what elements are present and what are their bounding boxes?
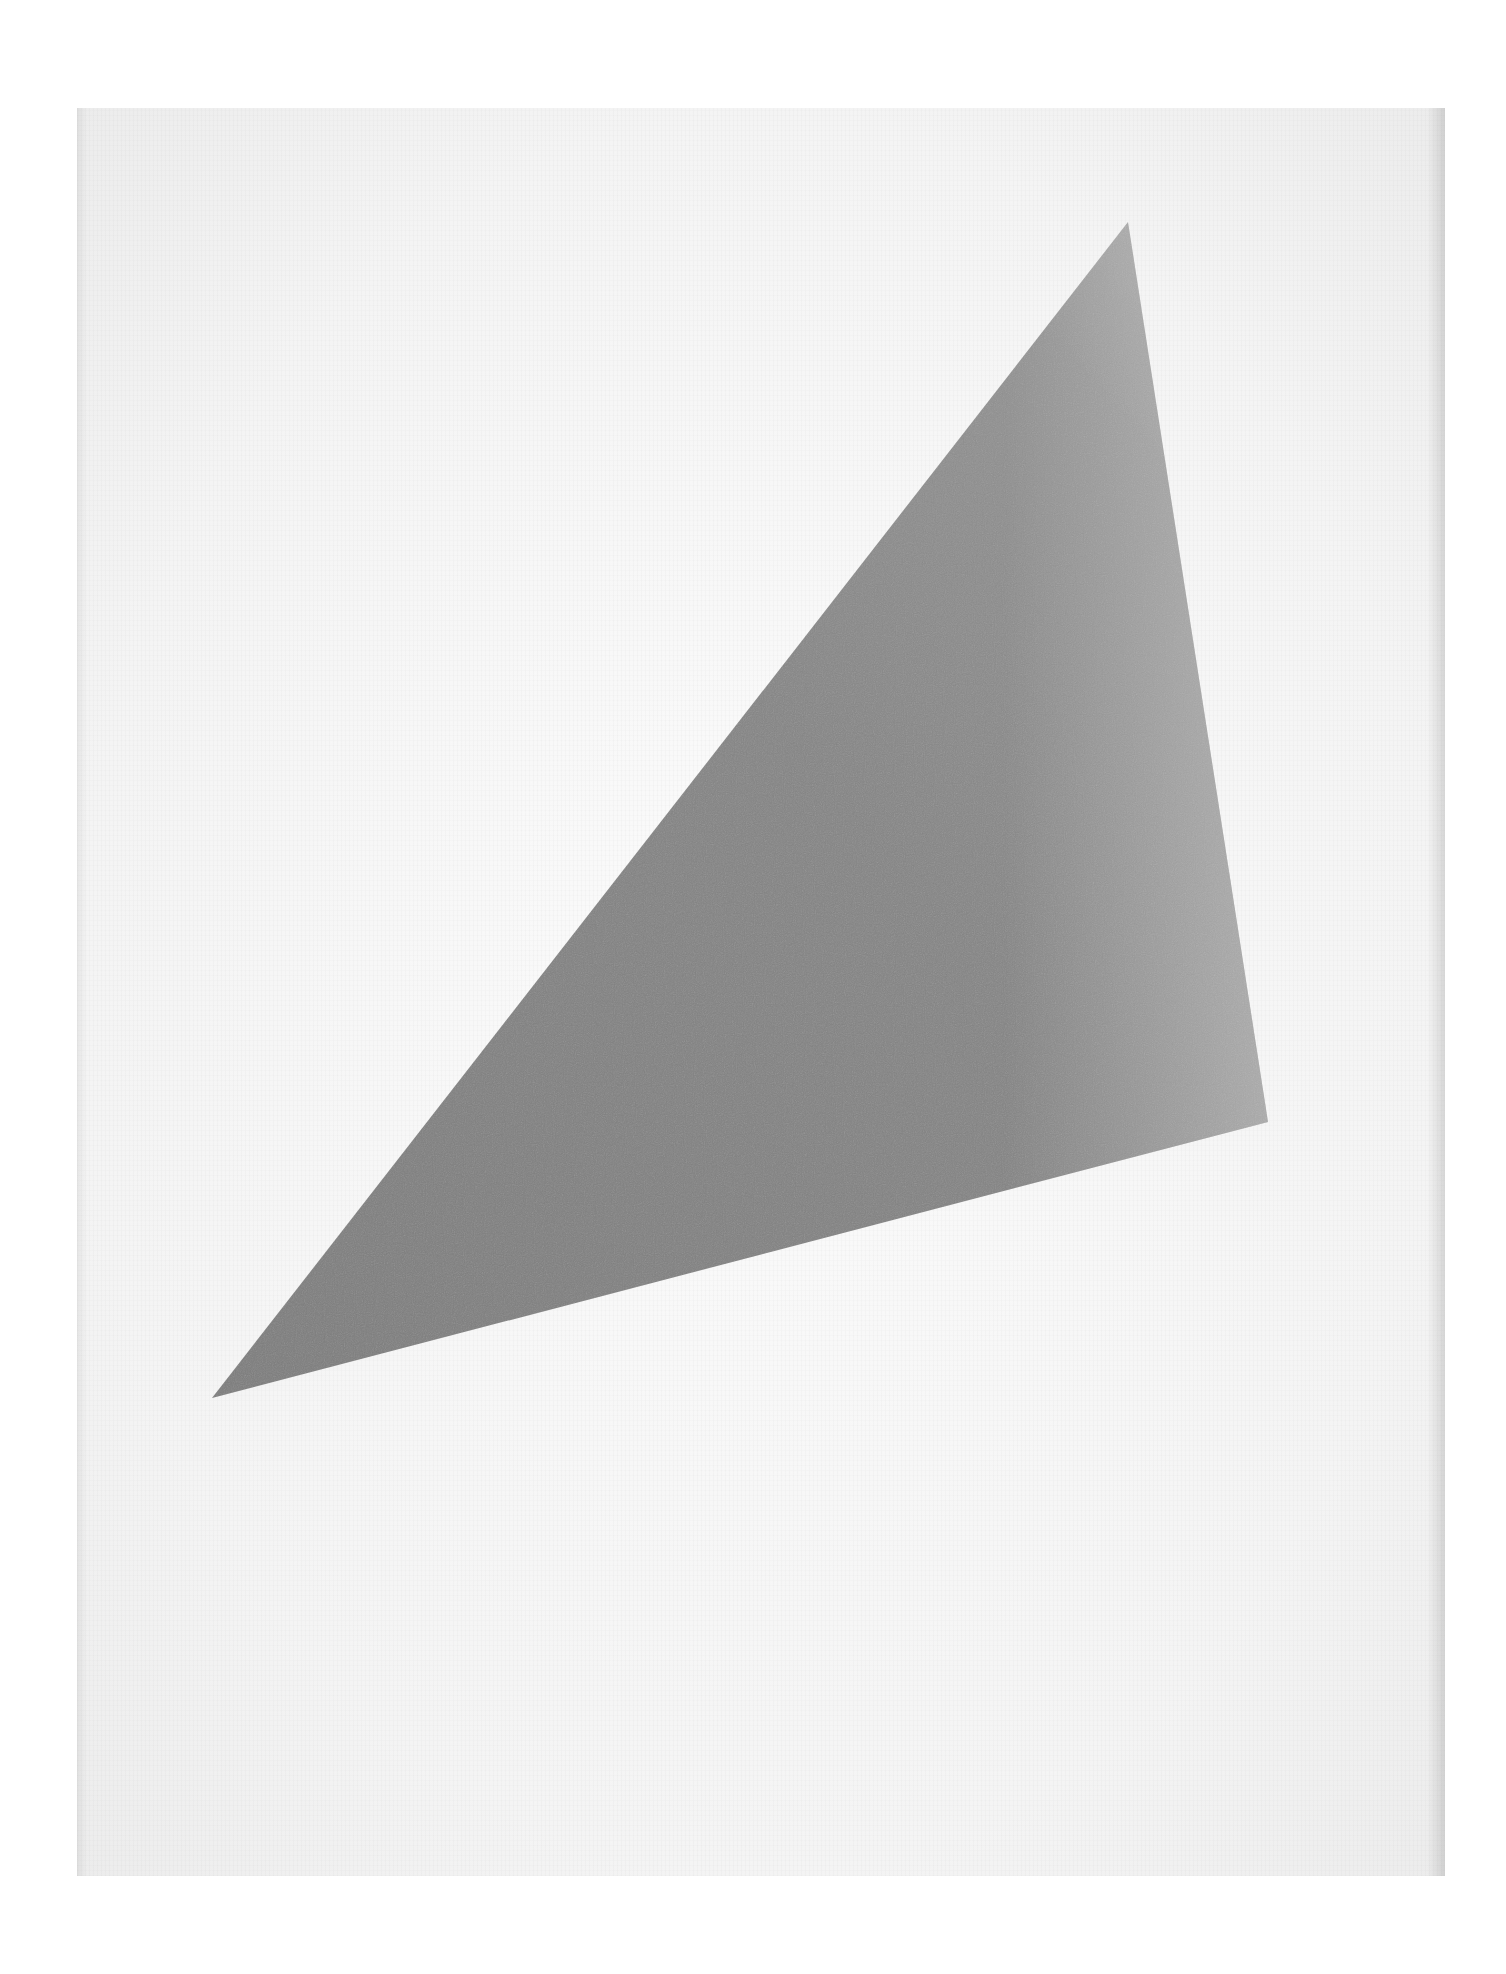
artwork <box>0 0 1506 1974</box>
triangle-highlight <box>212 222 1268 1398</box>
